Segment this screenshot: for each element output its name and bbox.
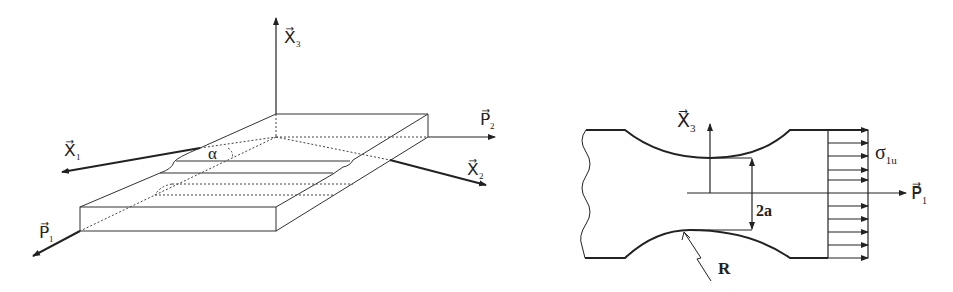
p1-label: P⃗1 bbox=[39, 222, 54, 244]
x3-label-right: X⃗3 bbox=[677, 109, 696, 134]
p2-label: P⃗2 bbox=[480, 109, 495, 131]
radius-leader bbox=[684, 232, 711, 281]
x1-axis-arrow bbox=[62, 148, 200, 172]
angle-alpha-label: α bbox=[208, 144, 217, 163]
notched-specimen-diagram bbox=[581, 124, 906, 281]
x1-label: X⃗1 bbox=[64, 140, 81, 162]
sigma-1u-label: σ1u bbox=[875, 141, 897, 166]
figure-canvas: X⃗3 X⃗1 α P⃗2 X⃗2 P⃗1 bbox=[0, 0, 953, 292]
x3-label: X⃗3 bbox=[284, 27, 301, 49]
p1-label-right: P⃗1 bbox=[911, 182, 927, 206]
bottom-notch-profile bbox=[585, 230, 828, 258]
top-notch-profile bbox=[586, 130, 868, 158]
stress-distribution-arrows bbox=[828, 130, 868, 258]
plate-3d-diagram bbox=[33, 18, 495, 256]
x2-label: X⃗2 bbox=[467, 159, 484, 181]
break-line bbox=[581, 130, 590, 258]
radius-r-label: R bbox=[718, 259, 731, 278]
dimension-2a-label: 2a bbox=[756, 202, 772, 219]
